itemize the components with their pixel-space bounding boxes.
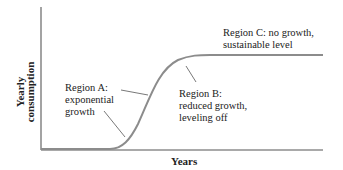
annotation-a-line3: growth [65,106,114,118]
annotation-b-line2: reduced growth, [179,100,247,112]
x-axis-label: Years [171,155,197,167]
annotation-a-line1: Region A: [65,82,114,94]
annotation-b-line3: leveling off [179,112,247,124]
chart-canvas [0,0,343,170]
y-axis-label-line2: consumption [24,52,36,132]
annotation-region-a: Region A: exponential growth [65,82,114,118]
annotation-c-line1: Region C: no growth, [223,27,314,39]
annotation-b-line1: Region B: [179,88,247,100]
annotation-region-b: Region B: reduced growth, leveling off [179,88,247,124]
leader-line-b [186,66,196,82]
annotation-region-c: Region C: no growth, sustainable level [223,27,314,51]
y-axis-label: Yearly consumption [2,48,46,138]
annotation-a-line2: exponential [65,94,114,106]
annotation-c-line2: sustainable level [223,39,314,51]
leader-line-a1 [121,90,148,95]
